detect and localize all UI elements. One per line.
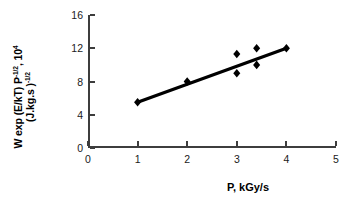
y-axis-tick-label: 4: [77, 109, 83, 121]
data-point-marker: [253, 44, 260, 53]
y-axis-title: W exp (E/kT) P-1/2, 104 (J.kg.s )-1/2: [1, 17, 47, 177]
y-axis-title-line-1: W exp (E/kT) P-1/2, 104: [12, 45, 24, 148]
y-axis-title-units-exponent: -1/2: [24, 72, 31, 83]
x-axis-tick-label: 4: [283, 153, 289, 165]
y-axis-title-part-mid: , 10: [12, 49, 24, 66]
trendline-segment: [138, 48, 287, 102]
x-axis-title: P, kGy/s: [227, 181, 269, 193]
x-axis-tick-label: 5: [333, 153, 339, 165]
data-point-marker: [283, 44, 290, 53]
y-axis-tick-label: 0: [77, 142, 83, 154]
y-axis-tick-label: 8: [77, 76, 83, 88]
y-axis-tick-label: 12: [71, 42, 83, 54]
y-axis-title-exponent-2: 4: [11, 45, 18, 49]
x-axis-tick-label: 3: [234, 153, 240, 165]
y-axis-title-units: (J.kg.s ): [24, 83, 36, 122]
data-point-marker: [233, 69, 240, 78]
data-point-marker: [233, 50, 240, 59]
x-axis-tick-label: 2: [184, 153, 190, 165]
data-point-marker: [134, 98, 141, 107]
plot-area: 0481216 012345: [88, 15, 336, 148]
chart-figure: W exp (E/kT) P-1/2, 104 (J.kg.s )-1/2 04…: [0, 0, 360, 205]
y-axis-title-exponent-1: -1/2: [11, 66, 18, 77]
y-axis-title-line-2: (J.kg.s )-1/2: [24, 72, 36, 122]
data-series-layer: [88, 15, 336, 148]
x-axis-tick-label: 0: [85, 153, 91, 165]
data-point-marker: [253, 61, 260, 70]
trendline: [138, 48, 287, 102]
x-axis-tick-label: 1: [135, 153, 141, 165]
y-axis-tick-label: 16: [71, 9, 83, 21]
y-axis-title-part-pre: W exp (E/kT) P: [12, 77, 24, 149]
